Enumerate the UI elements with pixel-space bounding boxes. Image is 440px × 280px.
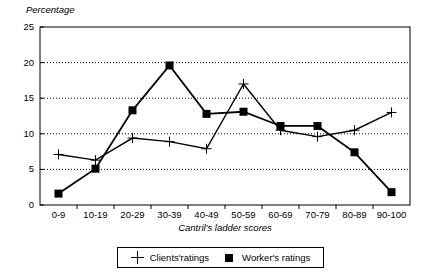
y-tick-label: 5 — [8, 164, 34, 174]
data-point-square — [277, 122, 285, 130]
data-point-square — [351, 148, 359, 156]
y-tick-label: 0 — [8, 200, 34, 210]
legend-label-clients: Clients'ratings — [150, 252, 209, 263]
data-point-square — [92, 165, 100, 173]
plot-canvas — [0, 0, 440, 280]
y-tick-label: 25 — [8, 22, 34, 32]
legend-item-workers: Worker's ratings — [223, 251, 310, 264]
y-tick-label: 20 — [8, 58, 34, 68]
cross-marker-icon — [131, 251, 144, 264]
data-point-square — [203, 110, 211, 118]
data-point-square — [240, 108, 248, 116]
x-axis-title: Cantril's ladder scores — [150, 222, 300, 233]
chart-legend: Clients'ratings Worker's ratings — [117, 247, 324, 268]
data-point-square — [314, 122, 322, 130]
y-tick-label: 15 — [8, 93, 34, 103]
y-tick-label: 10 — [8, 129, 34, 139]
data-point-square — [388, 188, 396, 196]
legend-item-clients: Clients'ratings — [131, 251, 209, 264]
chart-figure: Percentage 0510152025 0-910-1920-2930-39… — [0, 0, 440, 280]
data-point-square — [129, 106, 137, 114]
data-point-square — [55, 190, 63, 198]
x-tick-label: 90-100 — [369, 210, 414, 220]
data-point-square — [166, 61, 174, 69]
series-line-workers — [59, 65, 392, 193]
legend-label-workers: Worker's ratings — [242, 252, 310, 263]
square-marker-icon — [223, 251, 236, 264]
